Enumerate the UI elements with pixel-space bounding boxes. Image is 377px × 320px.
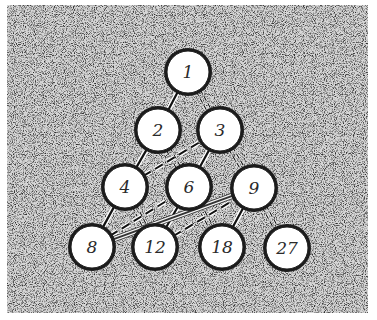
node-6: 6	[165, 163, 213, 211]
node-label: 6	[184, 177, 195, 197]
node-label: 3	[215, 120, 226, 140]
node-label: 8	[87, 237, 98, 257]
node-label: 4	[119, 177, 131, 197]
node-label: 18	[211, 237, 233, 257]
node-label: 12	[144, 237, 166, 257]
node-label: 9	[249, 178, 260, 198]
node-2: 2	[134, 106, 182, 154]
node-9: 9	[230, 164, 278, 212]
node-18: 18	[198, 223, 246, 271]
node-1: 1	[164, 48, 212, 96]
node-27: 27	[263, 224, 311, 272]
node-8: 8	[68, 223, 116, 271]
node-3: 3	[196, 106, 244, 154]
node-label: 2	[152, 120, 164, 140]
node-4: 4	[101, 163, 149, 211]
node-label: 1	[183, 62, 194, 82]
multiplication-lattice-diagram: 1234698121827	[0, 0, 377, 320]
node-label: 27	[275, 238, 298, 258]
node-12: 12	[131, 223, 179, 271]
